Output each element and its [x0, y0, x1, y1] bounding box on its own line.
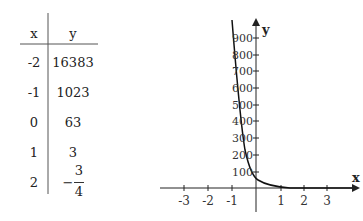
x-tick-label: -1 [226, 194, 238, 208]
y-tick-label: 700 [232, 65, 253, 78]
y-axis-label: y [261, 22, 270, 37]
y-tick-label: 100 [232, 166, 253, 179]
x-tick-label: -2 [202, 194, 214, 208]
x-tick-label: 2 [300, 194, 308, 208]
x-tick-label: 1 [277, 194, 285, 208]
x-tick-label: -3 [178, 194, 190, 208]
y-axis-arrow-icon [252, 18, 260, 26]
x-axis-label: x [352, 170, 360, 185]
y-tick-label: 600 [232, 82, 253, 95]
y-tick-label: 800 [232, 49, 253, 62]
y-tick-label: 200 [232, 149, 253, 162]
graph: -3 -2 -1 1 2 3 100 200 300 400 500 600 7… [0, 0, 363, 221]
y-tick-label: 400 [232, 115, 253, 128]
y-tick-label: 900 [232, 32, 253, 45]
y-tick-label: 500 [232, 99, 253, 112]
x-axis-arrow-icon [352, 184, 360, 192]
x-tick-label: 3 [323, 194, 331, 208]
y-tick-label: 300 [232, 132, 253, 145]
